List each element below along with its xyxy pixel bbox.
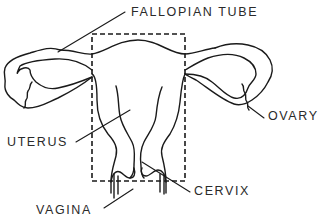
uterus-leader (76, 110, 130, 142)
label-fallopian-tube: FALLOPIAN TUBE (131, 6, 258, 19)
uterine-cavity-right (140, 87, 162, 178)
label-vagina: VAGINA (36, 204, 92, 217)
left-fallopian-tube-inner (17, 59, 92, 89)
left-ovary (24, 82, 32, 108)
uterine-cavity-left (116, 86, 135, 178)
label-uterus: UTERUS (7, 136, 68, 149)
label-ovary: OVARY (268, 110, 319, 123)
uterus-fundus (60, 40, 215, 54)
left-fallopian-tube (4, 48, 92, 108)
label-cervix: CERVIX (194, 185, 250, 198)
ovary-leader (248, 106, 264, 118)
uterus-highlight-box (92, 34, 185, 181)
right-fallopian-tube-inner (185, 55, 256, 99)
